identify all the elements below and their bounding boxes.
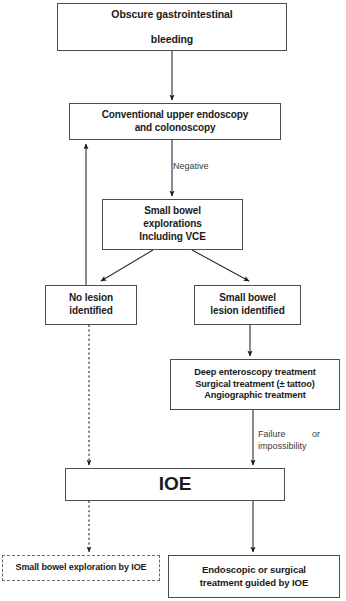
node-conventional-endoscopy[interactable]: Conventional upper endoscopy and colonos… bbox=[69, 103, 281, 140]
node-no-lesion-line1: No lesion bbox=[46, 292, 136, 305]
node-endoscopic-line1: Endoscopic or surgical bbox=[169, 564, 339, 576]
node-explorations-line3: Including VCE bbox=[103, 231, 242, 244]
edge-explorations-to-sb-lesion bbox=[192, 250, 249, 281]
node-endoscopic-line2: treatment guided by IOE bbox=[169, 577, 339, 589]
flowchart-canvas: Obscure gastrointestinal bleeding Conven… bbox=[0, 0, 346, 601]
edge-explorations-to-no-lesion bbox=[101, 250, 153, 281]
edge-label-impossibility-word: impossibility bbox=[258, 440, 342, 452]
node-endoscopic-or-surgical-treatment[interactable]: Endoscopic or surgical treatment guided … bbox=[168, 555, 340, 598]
node-explorations-line2: explorations bbox=[103, 218, 242, 231]
node-ioe-label: IOE bbox=[66, 472, 284, 496]
node-treatment-line3: Angiographic treatment bbox=[171, 390, 339, 402]
node-explorations-line1: Small bowel bbox=[103, 205, 242, 218]
edge-label-failure-impossibility: Failure or impossibility bbox=[258, 428, 342, 452]
node-small-bowel-lesion-identified[interactable]: Small bowel lesion identified bbox=[194, 285, 301, 325]
node-ioe[interactable]: IOE bbox=[65, 468, 285, 501]
node-obscure-line2: bleeding bbox=[58, 33, 286, 46]
node-conventional-line2: and colonoscopy bbox=[70, 122, 280, 135]
node-sb-lesion-line2: lesion identified bbox=[195, 305, 300, 318]
node-conventional-line1: Conventional upper endoscopy bbox=[70, 109, 280, 122]
node-treatment-line1: Deep enteroscopy treatment bbox=[171, 367, 339, 379]
edge-label-or-word: or bbox=[312, 428, 320, 440]
node-small-bowel-explorations[interactable]: Small bowel explorations Including VCE bbox=[102, 199, 243, 250]
edge-label-failure-row: Failure or bbox=[258, 428, 320, 440]
node-small-bowel-exploration-by-ioe[interactable]: Small bowel exploration by IOE bbox=[2, 555, 160, 581]
node-obscure-line1: Obscure gastrointestinal bbox=[58, 8, 286, 21]
edge-label-failure-word: Failure bbox=[258, 428, 286, 440]
node-no-lesion-identified[interactable]: No lesion identified bbox=[45, 285, 137, 325]
node-sb-exploration-label: Small bowel exploration by IOE bbox=[3, 562, 159, 574]
node-no-lesion-line2: identified bbox=[46, 305, 136, 318]
node-treatment-line2: Surgical treatment (± tattoo) bbox=[171, 379, 339, 391]
node-sb-lesion-line1: Small bowel bbox=[195, 292, 300, 305]
edge-label-negative: Negative bbox=[173, 160, 209, 172]
node-obscure-gi-bleeding[interactable]: Obscure gastrointestinal bleeding bbox=[57, 3, 287, 51]
node-treatment-options[interactable]: Deep enteroscopy treatment Surgical trea… bbox=[170, 359, 340, 410]
